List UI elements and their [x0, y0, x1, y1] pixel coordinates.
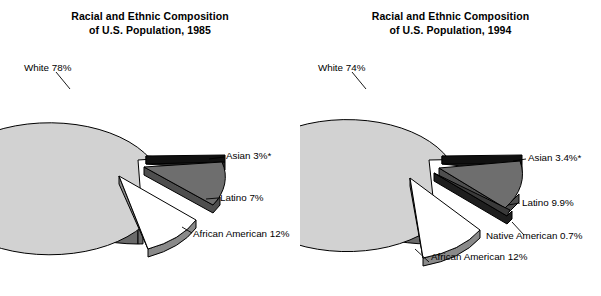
pie-graphic-1985	[0, 0, 300, 296]
label-african-american-1994: African American 12%	[431, 251, 527, 262]
label-latino-1985: Latino 7%	[220, 192, 264, 203]
leader-line-white-1985	[56, 72, 70, 89]
label-white-1985: White 78%	[24, 62, 71, 73]
pie-chart-1994: Racial and Ethnic Composition of U.S. Po…	[300, 0, 601, 296]
label-asian-1985: Asian 3%*	[226, 150, 271, 161]
pie-chart-1985: Racial and Ethnic Composition of U.S. Po…	[0, 0, 300, 296]
label-white-1994: White 74%	[318, 62, 365, 73]
figure-racial-ethnic-composition: Racial and Ethnic Composition of U.S. Po…	[0, 0, 601, 296]
label-latino-1994: Latino 9.9%	[522, 197, 574, 208]
leader-line-white-1994	[352, 72, 366, 89]
label-native-american-1994: Native American 0.7%	[486, 230, 582, 241]
label-asian-1994: Asian 3.4%*	[528, 152, 581, 163]
label-african-american-1985: African American 12%	[193, 228, 289, 239]
